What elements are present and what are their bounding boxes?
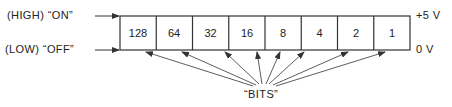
- zero-v-label: 0 V: [416, 43, 434, 55]
- bit-cell-2: 2: [338, 16, 374, 50]
- bit-cell-32: 32: [192, 16, 229, 50]
- bit-cell-4: 4: [301, 16, 338, 50]
- bit-cell-16: 16: [229, 16, 265, 50]
- bit-cell-64: 64: [156, 16, 192, 50]
- bit-cell-8: 8: [265, 16, 301, 50]
- low-off-label: (LOW) “OFF”: [5, 43, 74, 55]
- bit-cell-1: 1: [374, 16, 410, 50]
- plus-5v-label: +5 V: [416, 9, 441, 21]
- byte-diagram: (HIGH) “ON” (LOW) “OFF” +5 V 0 V “BITS” …: [0, 0, 452, 107]
- bit-cell-128: 128: [120, 16, 156, 50]
- high-on-label: (HIGH) “ON”: [7, 9, 73, 21]
- bits-label: “BITS”: [244, 88, 278, 100]
